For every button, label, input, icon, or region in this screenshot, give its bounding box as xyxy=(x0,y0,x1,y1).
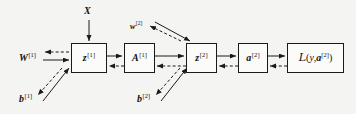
node-z1: z[1] xyxy=(71,43,107,73)
node-z2-label: z[2] xyxy=(195,52,207,63)
node-a1: A[1] xyxy=(124,43,155,73)
node-loss-label: L(y,a[2]) xyxy=(299,52,333,63)
node-z2: z[2] xyxy=(186,43,217,73)
node-a1-label: A[1] xyxy=(132,52,147,63)
node-loss: L(y,a[2]) xyxy=(287,43,344,73)
computation-graph-diagram: z[1] A[1] z[2] a[2] L(y,a[2]) X w[2] W[1… xyxy=(0,0,356,114)
node-z1-label: z[1] xyxy=(83,52,95,63)
node-a2-label: a[2] xyxy=(246,52,260,63)
label-input-x: X xyxy=(84,6,91,16)
label-w1: W[1] xyxy=(19,52,36,63)
node-a2: a[2] xyxy=(238,43,268,73)
label-b2: b[2] xyxy=(137,93,150,104)
label-b1: b[1] xyxy=(19,93,32,104)
label-w2: w[2] xyxy=(130,21,142,31)
